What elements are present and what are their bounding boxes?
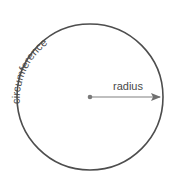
center-dot xyxy=(88,95,93,100)
circumference-label-text: circumference xyxy=(10,36,50,104)
radius-label: radius xyxy=(113,80,143,92)
circumference-label: circumference xyxy=(10,36,50,104)
circle-diagram: radius circumference xyxy=(0,0,175,179)
